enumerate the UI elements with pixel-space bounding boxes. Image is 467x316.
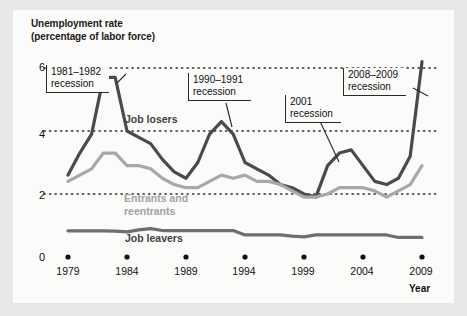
callout-1-line2: recession	[193, 86, 236, 97]
callout-1981-1982-recession: 1981–1982 recession	[46, 65, 109, 93]
x-tick-dot	[65, 254, 70, 259]
x-tick-1989: 1989	[166, 265, 206, 277]
y-tick-6: 6	[29, 61, 45, 73]
x-tick-dot	[419, 254, 424, 259]
callout-2-line1: 2001	[290, 96, 312, 107]
series-label-job-leavers: Job leavers	[125, 232, 183, 244]
callout-1-line1: 1990–1991	[193, 74, 243, 85]
y-tick-0: 0	[29, 251, 45, 263]
chart-figure: Unemployment rate (percentage of labor f…	[13, 10, 454, 303]
series-label-entrants: Entrants and reentrants	[124, 192, 188, 218]
callout-1990-1991-recession: 1990–1991 recession	[188, 73, 251, 101]
series-label-job-losers: Job losers	[125, 113, 178, 125]
series-label-entrants-line1: Entrants and	[124, 192, 188, 204]
x-tick-1984: 1984	[107, 265, 147, 277]
y-tick-2: 2	[29, 189, 45, 201]
x-tick-dot	[124, 254, 129, 259]
callout-0-line1: 1981–1982	[51, 66, 101, 77]
callout-0-line2: recession	[51, 78, 94, 89]
series-label-entrants-line2: reentrants	[124, 205, 175, 217]
chart-plot-area	[13, 10, 454, 303]
x-tick-2009: 2009	[401, 265, 441, 277]
callout-2-line2: recession	[290, 108, 333, 119]
x-tick-1994: 1994	[224, 265, 264, 277]
x-tick-1999: 1999	[283, 265, 323, 277]
x-axis-title: Year	[409, 283, 430, 294]
x-tick-1979: 1979	[48, 265, 88, 277]
series-line-job-leavers	[68, 229, 422, 238]
x-tick-dot	[183, 254, 188, 259]
x-tick-2004: 2004	[342, 265, 382, 277]
callout-3-line2: recession	[348, 81, 391, 92]
callout-2008-2009-recession: 2008–2009 recession	[343, 68, 406, 96]
x-tick-dots	[65, 254, 424, 259]
y-tick-4: 4	[29, 128, 45, 140]
callout-2001-recession: 2001 recession	[285, 95, 341, 123]
x-tick-dot	[360, 254, 365, 259]
callout-3-line1: 2008–2009	[348, 69, 398, 80]
x-tick-dot	[301, 254, 306, 259]
x-tick-dot	[242, 254, 247, 259]
